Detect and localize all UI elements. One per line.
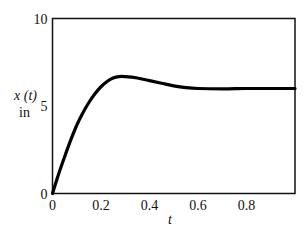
x-tick-label: 0	[49, 198, 56, 213]
y-axis-ticks: 0510	[34, 12, 48, 202]
x-tick-label: 0.2	[92, 198, 110, 213]
y-axis-label: x (t)	[13, 88, 37, 104]
x-tick-label: 0.6	[189, 198, 207, 213]
y-axis-unit: in	[19, 105, 30, 120]
plot-frame	[53, 19, 296, 194]
y-tick-label: 10	[34, 12, 48, 27]
line-chart: 0510 00.20.40.60.8 x (t) in t	[0, 0, 308, 232]
x-axis-ticks: 00.20.40.60.8	[49, 198, 255, 213]
response-curve	[53, 76, 296, 193]
x-tick-label: 0.8	[238, 198, 256, 213]
x-tick-label: 0.4	[141, 198, 159, 213]
y-tick-label: 5	[41, 99, 48, 114]
y-tick-label: 0	[41, 187, 48, 202]
x-axis-label: t	[168, 212, 173, 227]
